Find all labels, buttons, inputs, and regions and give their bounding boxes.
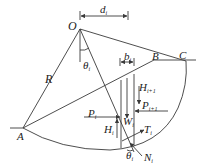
- slope-stability-slice-diagram: O R A B C di bi θi Hi+1 Pi+1 Pi Hi Wi Ti…: [0, 0, 200, 166]
- b-label: bi: [124, 51, 131, 63]
- H-label: Hi: [104, 124, 114, 136]
- theta-arc-top: [80, 48, 89, 50]
- W-label: Wi: [123, 116, 134, 128]
- point-label-B: B: [152, 51, 159, 62]
- radius-label-R: R: [45, 73, 52, 85]
- H-next-label: Hi+1: [139, 82, 156, 94]
- theta-bottom-label: θi: [126, 150, 133, 162]
- point-label-A: A: [17, 131, 24, 142]
- P-label: Pi: [88, 108, 96, 120]
- d-label: di: [100, 4, 107, 16]
- diagram-lines: [0, 0, 200, 166]
- T-label: Ti: [144, 124, 152, 136]
- N-label: Ni: [144, 152, 153, 164]
- point-label-C: C: [179, 50, 186, 61]
- theta-top-label: θi: [83, 60, 90, 72]
- line-OC: [80, 29, 186, 61]
- point-label-O: O: [68, 20, 77, 32]
- P-next-label: Pi+1: [142, 100, 157, 112]
